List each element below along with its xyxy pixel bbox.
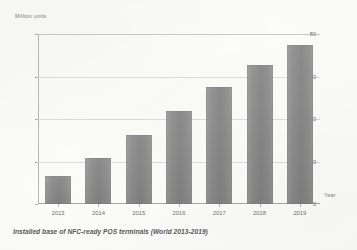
- bar-slot: [166, 34, 192, 204]
- bar-slot: [206, 34, 232, 204]
- bar: [126, 135, 152, 204]
- x-tick-mark: [58, 204, 59, 207]
- bar: [247, 65, 273, 204]
- x-tick-label: 2016: [159, 210, 199, 216]
- x-tick-label: 2014: [78, 210, 118, 216]
- x-tick-label: 2019: [280, 210, 320, 216]
- bar-slot: [85, 34, 111, 204]
- x-tick-mark: [139, 204, 140, 207]
- x-tick-mark: [300, 204, 301, 207]
- bar: [166, 111, 192, 205]
- plot-area: 020406080 2013201420152016201720182019: [38, 34, 320, 204]
- x-tick-label: 2017: [199, 210, 239, 216]
- x-tick-mark: [98, 204, 99, 207]
- x-tick-label: 2018: [239, 210, 279, 216]
- bar-slot: [45, 34, 71, 204]
- x-axis-label: Year: [324, 192, 336, 198]
- bar: [45, 176, 71, 204]
- x-tick-mark: [179, 204, 180, 207]
- figure-caption: Installed base of NFC-ready POS terminal…: [13, 228, 208, 235]
- bar-slot: [247, 34, 273, 204]
- x-tick-mark: [260, 204, 261, 207]
- bar-series: [38, 34, 320, 204]
- chart-figure: Million units Year 020406080 20132014201…: [0, 0, 357, 250]
- bar: [287, 45, 313, 204]
- y-axis-label: Million units: [15, 13, 46, 19]
- bar-slot: [287, 34, 313, 204]
- bar-slot: [126, 34, 152, 204]
- bar: [85, 158, 111, 204]
- x-tick-label: 2013: [38, 210, 78, 216]
- bar: [206, 87, 232, 204]
- x-tick-label: 2015: [119, 210, 159, 216]
- y-tick-mark: [35, 204, 38, 205]
- x-tick-mark: [219, 204, 220, 207]
